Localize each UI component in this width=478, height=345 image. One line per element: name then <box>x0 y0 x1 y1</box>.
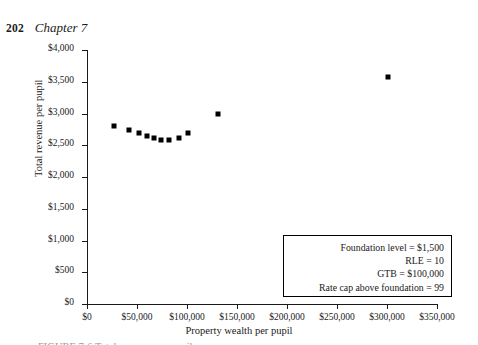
data-point <box>127 128 132 133</box>
y-axis-tick: $2,000 <box>82 177 87 178</box>
y-axis-tick: $2,500 <box>82 145 87 146</box>
y-axis-tick: $3,500 <box>82 82 87 83</box>
y-axis-tick: $3,000 <box>82 114 87 115</box>
x-axis-title: Property wealth per pupil <box>0 325 478 336</box>
data-point <box>386 75 391 80</box>
y-axis-tick: $4,000 <box>82 50 87 51</box>
x-axis-tick-label: $250,000 <box>319 312 355 322</box>
data-point <box>145 133 150 138</box>
x-axis-tick: $200,000 <box>287 304 288 309</box>
param-line: GTB = $100,000 <box>284 267 444 280</box>
y-axis-tick-label: $3,500 <box>48 75 74 85</box>
y-axis-title: Total revenue per pupil <box>33 79 44 177</box>
x-axis-tick-label: $350,000 <box>419 312 455 322</box>
y-axis-tick-label: $500 <box>55 265 74 275</box>
x-axis-tick: $0 <box>87 304 88 309</box>
y-axis-tick-label: $1,000 <box>48 234 74 244</box>
data-point <box>159 137 164 142</box>
data-point <box>186 131 191 136</box>
y-axis-tick-label: $3,000 <box>48 107 74 117</box>
y-axis-tick-label: $4,000 <box>48 43 74 53</box>
x-axis-tick-label: $200,000 <box>269 312 305 322</box>
data-point <box>152 135 157 140</box>
y-axis-tick: $1,000 <box>82 241 87 242</box>
y-axis-tick: $1,500 <box>82 209 87 210</box>
x-axis-tick-label: $100,000 <box>169 312 205 322</box>
scatter-chart-figure: $0$500$1,000$1,500$2,000$2,500$3,000$3,5… <box>0 0 478 345</box>
x-axis-tick: $300,000 <box>387 304 388 309</box>
x-axis-line <box>87 304 438 305</box>
data-point <box>112 124 117 129</box>
data-point <box>167 138 172 143</box>
y-axis-tick: $500 <box>82 272 87 273</box>
x-axis-tick-label: $0 <box>82 312 92 322</box>
x-axis-tick: $150,000 <box>237 304 238 309</box>
y-axis-tick-label: $2,000 <box>48 170 74 180</box>
param-line: Rate cap above foundation = 99 <box>284 281 444 294</box>
x-axis-tick-label: $50,000 <box>122 312 153 322</box>
x-axis-tick: $350,000 <box>437 304 438 309</box>
x-axis-tick: $100,000 <box>187 304 188 309</box>
param-line: Foundation level = $1,500 <box>284 241 444 254</box>
y-axis-tick-label: $2,500 <box>48 138 74 148</box>
y-axis-tick-label: $0 <box>65 297 75 307</box>
x-axis-tick-label: $150,000 <box>219 312 255 322</box>
param-line: RLE = 10 <box>284 254 444 267</box>
data-point <box>216 111 221 116</box>
x-axis-tick-label: $300,000 <box>369 312 405 322</box>
x-axis-tick: $50,000 <box>137 304 138 309</box>
x-axis-tick: $250,000 <box>337 304 338 309</box>
y-axis-tick-label: $1,500 <box>48 202 74 212</box>
data-point <box>177 136 182 141</box>
data-point <box>137 131 142 136</box>
figure-caption: FIGURE 7-6 Total revenue per pupil <box>38 341 438 345</box>
parameter-annotation-box: Foundation level = $1,500 RLE = 10 GTB =… <box>283 235 452 297</box>
